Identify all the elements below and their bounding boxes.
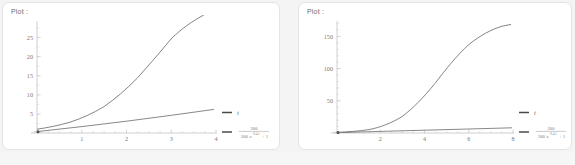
- right-ytick-label-1: 100: [324, 65, 333, 72]
- left-legend-denominator-e: e: [250, 134, 252, 139]
- right-legend-denominator-exponent: -0.4 t: [550, 132, 557, 136]
- left-xtick-label-2: 3: [170, 135, 173, 142]
- left-y-ticks: [37, 28, 41, 124]
- right-legend-denominator-e: e: [547, 134, 549, 139]
- right-legend-fraction: 200 200 e -0.4 t + 1: [536, 126, 566, 139]
- right-legend-label-0: t: [534, 109, 536, 116]
- left-legend-denominator-base: 200: [241, 134, 249, 139]
- left-legend-numerator: 200: [251, 126, 259, 131]
- left-xtick-label-1: 2: [125, 135, 128, 142]
- left-exponential-curve: [37, 15, 206, 129]
- left-plot-label: Plot :: [11, 8, 28, 15]
- left-plot-figure[interactable]: 5 10 15 20 25: [3, 15, 280, 149]
- left-xtick-label-3: 4: [214, 135, 217, 142]
- right-ytick-label-0: 50: [327, 97, 333, 104]
- left-ytick-label-1: 10: [27, 91, 33, 98]
- left-legend-denominator-tail: + 1: [262, 134, 269, 139]
- right-legend-numerator: 200: [548, 126, 556, 131]
- left-ytick-label-2: 15: [27, 72, 33, 79]
- right-y-ticks: [337, 24, 341, 127]
- right-plot-figure[interactable]: 50 100 150: [299, 15, 572, 149]
- right-plot-label: Plot :: [307, 8, 324, 15]
- right-xtick-label-2: 6: [467, 135, 470, 142]
- left-xtick-label-0: 1: [80, 135, 83, 142]
- left-x-ticks: [48, 130, 216, 133]
- left-linear-curve: [37, 109, 214, 131]
- right-xtick-label-3: 8: [511, 135, 514, 142]
- right-ytick-label-2: 150: [324, 33, 333, 40]
- right-xtick-label-0: 2: [379, 135, 382, 142]
- left-ytick-label-0: 5: [30, 110, 33, 117]
- right-legend-denominator-tail: + 1: [559, 134, 566, 139]
- left-legend-denominator-exponent: -0.4 t: [253, 132, 260, 136]
- right-plot-panel[interactable]: Plot :: [298, 2, 572, 150]
- screenshot-root: Plot : 5 10 15: [0, 0, 575, 165]
- left-legend-label-0: t: [237, 109, 239, 116]
- left-ytick-label-4: 25: [27, 34, 33, 41]
- right-legend-denominator-base: 200: [538, 134, 546, 139]
- left-plot-panel[interactable]: Plot : 5 10 15: [2, 2, 280, 150]
- left-ytick-label-3: 20: [27, 53, 33, 60]
- left-legend-fraction: 200 200 e -0.4 t + 1: [239, 126, 269, 139]
- right-sigmoid-curve: [337, 24, 511, 132]
- right-xtick-label-1: 4: [423, 135, 426, 142]
- background-strip: [0, 152, 575, 165]
